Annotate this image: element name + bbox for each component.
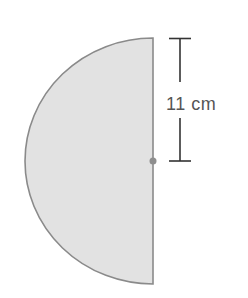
semicircle-shape <box>25 38 153 284</box>
radius-label: 11 cm <box>164 94 236 115</box>
semicircle-diagram <box>0 0 248 298</box>
center-dot <box>150 158 157 165</box>
